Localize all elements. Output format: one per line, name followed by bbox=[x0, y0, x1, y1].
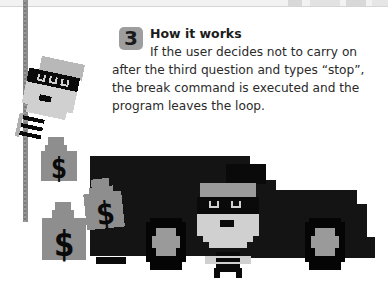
description-line-3: the break command is executed and the bbox=[112, 79, 369, 97]
step-description: If the user decides not to carry on afte… bbox=[119, 43, 369, 115]
van-rear-wheel bbox=[305, 218, 345, 270]
description-line-1: If the user decides not to carry on bbox=[119, 43, 369, 61]
description-line-2: after the third question and types “stop… bbox=[112, 61, 369, 79]
svg-text:$: $ bbox=[51, 152, 68, 185]
burglar-by-van bbox=[197, 183, 259, 278]
money-bag-1: $ bbox=[41, 137, 77, 185]
svg-text:$: $ bbox=[53, 223, 75, 264]
step-title: How it works bbox=[150, 26, 242, 41]
burglar-on-rope bbox=[15, 54, 85, 147]
svg-text:$: $ bbox=[94, 193, 117, 233]
money-bag-3: $ bbox=[42, 202, 86, 264]
van-front-wheel bbox=[146, 218, 186, 270]
description-line-4: program leaves the loop. bbox=[112, 97, 369, 115]
van-bumper bbox=[96, 257, 126, 264]
